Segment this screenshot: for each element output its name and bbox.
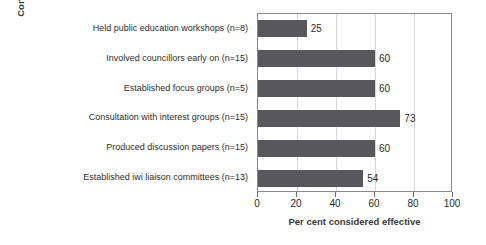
bar [258,50,375,67]
bar-value-label: 60 [379,80,390,97]
x-axis-tick-label: 100 [444,198,461,209]
x-axis-tick [296,192,297,197]
x-axis-title: Per cent considered effective [257,216,452,227]
category-label: Produced discussion papers (n=15) [106,140,248,154]
category-label: Held public education workshops (n=8) [93,21,248,35]
y-axis-title: Consultation actions and frequency of us… [8,0,44,36]
x-axis-tick-label: 60 [368,198,379,209]
bar [258,80,375,97]
gridline [414,14,415,191]
x-axis-tick [257,192,258,197]
category-label: Established focus groups (n=5) [124,81,248,95]
bar-value-label: 60 [379,50,390,67]
x-axis-tick [413,192,414,197]
x-axis-tick-labels: 020406080100 [257,198,452,212]
x-axis-tick [374,192,375,197]
bar-value-label: 54 [367,170,378,187]
bar-value-label: 25 [311,20,322,37]
y-axis-title-line-1: Consultation actions and frequency [15,0,27,17]
gridline [336,14,337,191]
category-label: Established iwi liaison committees (n=13… [83,170,248,184]
gridline [297,14,298,191]
plot-area: 256060736054 [257,13,452,192]
bar-value-label: 73 [404,110,415,127]
x-axis-tick-label: 80 [407,198,418,209]
bar [258,110,400,127]
bar-chart-figure: Consultation actions and frequency of us… [0,0,486,245]
x-axis-tick [452,192,453,197]
category-label: Involved councillors early on (n=15) [106,51,248,65]
bar [258,170,363,187]
category-label-list: Held public education workshops (n=8)Inv… [40,13,252,192]
category-label: Consultation with interest groups (n=15) [89,110,248,124]
bar [258,140,375,157]
bar [258,20,307,37]
x-axis-tick [335,192,336,197]
bar-value-label: 60 [379,140,390,157]
x-axis-tick-label: 0 [254,198,260,209]
gridline [375,14,376,191]
x-axis-tick-label: 20 [290,198,301,209]
x-axis-tick-label: 40 [329,198,340,209]
